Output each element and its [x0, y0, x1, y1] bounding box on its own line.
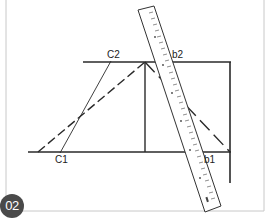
label-c1: C1 [55, 154, 68, 165]
figure-number-badge: 02 [0, 194, 24, 218]
label-b1: b1 [204, 154, 216, 165]
ruler [138, 6, 221, 212]
left-dashed-diagonal [38, 62, 145, 152]
c1-c2-line [60, 61, 111, 153]
diagram-frame: C2 C1 b2 b1 [0, 0, 268, 222]
geometry-diagram: C2 C1 b2 b1 [0, 0, 268, 222]
label-b2: b2 [172, 49, 184, 60]
label-c2: C2 [107, 49, 120, 60]
